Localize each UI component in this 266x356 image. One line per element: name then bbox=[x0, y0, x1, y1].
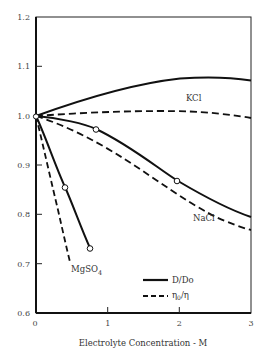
x-tick-2: 2 bbox=[177, 319, 182, 328]
plot-frame bbox=[36, 17, 251, 313]
y-tick-labels: 0.6 0.7 0.8 0.9 1.0 1.1 1.2 bbox=[17, 13, 30, 318]
legend-dashed-label: η0/η bbox=[172, 290, 189, 301]
y-tick-1.2: 1.2 bbox=[17, 13, 30, 22]
y-tick-0.7: 0.7 bbox=[17, 260, 30, 269]
y-tick-0.8: 0.8 bbox=[17, 210, 30, 219]
y-tick-0.6: 0.6 bbox=[17, 309, 30, 318]
nacl-marker-1 bbox=[93, 127, 99, 133]
y-tick-0.9: 0.9 bbox=[17, 161, 30, 170]
nacl-eta-ratio-line bbox=[36, 116, 251, 230]
x-tick-labels: 0 1 2 3 bbox=[32, 319, 253, 328]
x-tick-0: 0 bbox=[32, 319, 37, 328]
line-chart: 0.6 0.7 0.8 0.9 1.0 1.1 1.2 0 1 2 3 Elec… bbox=[0, 0, 266, 356]
x-tick-1: 1 bbox=[105, 319, 110, 328]
nacl-label: NaCl bbox=[193, 213, 215, 223]
x-axis-title: Electrolyte Concentration - M bbox=[79, 338, 208, 348]
x-tick-3: 3 bbox=[248, 319, 253, 328]
y-tick-1.1: 1.1 bbox=[17, 62, 30, 71]
mgso4-label: MgSO4 bbox=[71, 264, 102, 277]
kcl-label: KCl bbox=[186, 93, 202, 103]
origin-marker bbox=[33, 114, 38, 119]
nacl-marker-2 bbox=[174, 178, 180, 184]
kcl-d-do-line bbox=[36, 77, 251, 116]
legend: D/Do η0/η bbox=[143, 275, 194, 301]
y-tick-1.0: 1.0 bbox=[17, 112, 30, 121]
mgso4-marker-2 bbox=[87, 246, 93, 252]
nacl-d-do-line bbox=[36, 116, 251, 217]
kcl-eta-ratio-line bbox=[36, 111, 251, 118]
legend-solid-label: D/Do bbox=[172, 275, 194, 285]
mgso4-marker-1 bbox=[62, 185, 68, 191]
